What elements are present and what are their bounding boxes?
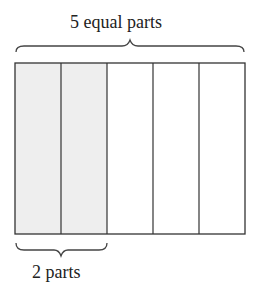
part-3 (107, 63, 153, 234)
bottom-brace (16, 243, 107, 256)
fraction-diagram (0, 0, 255, 295)
part-4 (153, 63, 199, 234)
top-brace (16, 40, 244, 52)
bottom-label: 2 parts (32, 262, 81, 283)
part-2 (61, 63, 107, 234)
part-1 (15, 63, 61, 234)
part-5 (199, 63, 245, 234)
